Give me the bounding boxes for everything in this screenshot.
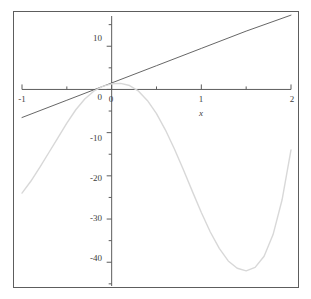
x-tick-label: 1 bbox=[194, 94, 208, 104]
y-tick-label: 10 bbox=[70, 33, 102, 43]
y-tick-label: -40 bbox=[66, 253, 102, 263]
series-curve bbox=[22, 83, 291, 270]
x-axis-label: x bbox=[194, 108, 208, 118]
plot-canvas bbox=[0, 0, 311, 299]
x-tick-label: 2 bbox=[285, 94, 299, 104]
y-tick-label: -10 bbox=[66, 133, 102, 143]
x-tick-label: 0 bbox=[104, 94, 118, 104]
y-tick-label: -30 bbox=[66, 213, 102, 223]
x-tick-label: -1 bbox=[13, 94, 31, 104]
plot-image: 10 0 -10 -20 -30 -40 -1 0 1 2 x bbox=[0, 0, 311, 299]
y-tick-label: 0 bbox=[70, 92, 102, 102]
series-group bbox=[22, 15, 291, 271]
y-tick-label: -20 bbox=[66, 173, 102, 183]
axes-group bbox=[22, 16, 291, 286]
series-line bbox=[22, 15, 291, 117]
